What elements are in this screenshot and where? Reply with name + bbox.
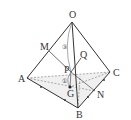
- tick-BC: [87, 96, 89, 98]
- tetrahedron-diagram: O A B C M N P Q G ③ ①: [0, 0, 131, 120]
- label-P: P: [64, 64, 70, 75]
- label-N: N: [97, 89, 104, 100]
- label-C: C: [113, 67, 120, 78]
- edge-OC: [72, 22, 110, 72]
- tick-NC: [103, 79, 105, 81]
- tick-AB-1: [40, 86, 42, 88]
- marker-1: ①: [62, 78, 67, 84]
- label-G: G: [67, 88, 74, 99]
- label-A: A: [18, 73, 26, 84]
- label-B: B: [76, 109, 83, 120]
- label-Q: Q: [80, 49, 88, 60]
- tick-AB-2: [64, 99, 66, 101]
- label-M: M: [40, 41, 49, 52]
- marker-3: ③: [62, 44, 67, 50]
- label-O: O: [69, 9, 76, 20]
- vector-PQ: [71, 58, 81, 72]
